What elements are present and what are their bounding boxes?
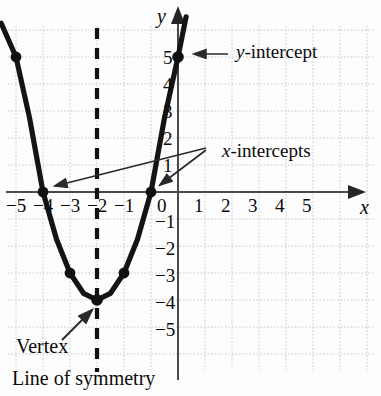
point-minus6-5 [11,52,22,63]
y-axis-label: y [157,6,166,26]
vertex-annotation: Vertex [16,336,68,356]
y-tick-5: 5 [163,48,173,67]
x-tick-minus-2: −2 [87,196,107,215]
y-tick-4: 4 [163,75,173,94]
point-minus4-minus3 [65,268,76,279]
y-intercept-annotation: y-intercept [236,42,317,61]
x-tick-2: 2 [221,196,231,215]
point-minus2-minus3 [119,268,130,279]
point-x-intercept-right [146,187,157,198]
x-intercepts-annotation: x-intercepts [222,141,311,160]
y-tick-minus-4: −4 [155,293,175,312]
y-tick-3: 3 [163,102,173,121]
x-tick-minus-4: −4 [33,196,53,215]
x-tick-3: 3 [248,196,258,215]
x-axis-label: x [360,197,369,217]
line-of-symmetry-caption: Line of symmetry [12,368,155,388]
x-tick-5: 5 [302,196,312,215]
x-tick-minus-3: −3 [60,196,80,215]
point-y-intercept [172,51,184,63]
y-tick-minus-5: −5 [155,320,175,339]
x-intercepts-leader [55,148,206,186]
x-tick-4: 4 [275,196,285,215]
x-intercepts-annotation-text: -intercepts [230,140,310,161]
y-tick-minus-2: −2 [155,239,175,258]
y-tick-minus-3: −3 [155,266,175,285]
graph-figure: −5 −4 −3 −2 −1 0 1 2 3 4 5 5 4 3 2 1 −1 … [0,0,381,396]
point-vertex [91,294,103,306]
x-tick-minus-5: −5 [6,196,26,215]
y-intercept-annotation-text: -intercept [244,41,317,62]
x-tick-minus-1: −1 [114,196,134,215]
y-tick-2: 2 [163,129,173,148]
y-tick-minus-1: −1 [155,212,175,231]
y-tick-1: 1 [163,156,173,175]
x-tick-1: 1 [194,196,204,215]
